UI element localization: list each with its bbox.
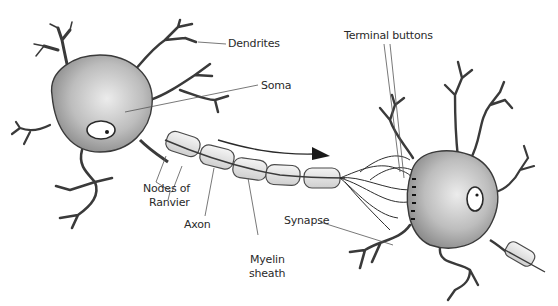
label-nodes-of-ranvier-1: Nodes of <box>143 182 190 195</box>
label-dendrites: Dendrites <box>228 37 280 50</box>
label-myelin-sheath-2: sheath <box>249 267 285 280</box>
left-soma <box>52 55 153 152</box>
label-axon: Axon <box>184 218 211 231</box>
left-nucleus <box>87 121 115 139</box>
label-myelin-sheath-1: Myelin <box>250 253 285 266</box>
label-terminal-buttons: Terminal buttons <box>344 29 433 42</box>
label-synapse: Synapse <box>284 214 329 227</box>
label-soma: Soma <box>261 79 291 92</box>
right-axon-myelin <box>490 240 545 272</box>
label-nodes-of-ranvier-2: Ranvier <box>149 196 190 209</box>
right-nucleus <box>467 187 483 211</box>
axon-terminal-branches <box>340 156 412 230</box>
right-soma <box>407 151 497 248</box>
